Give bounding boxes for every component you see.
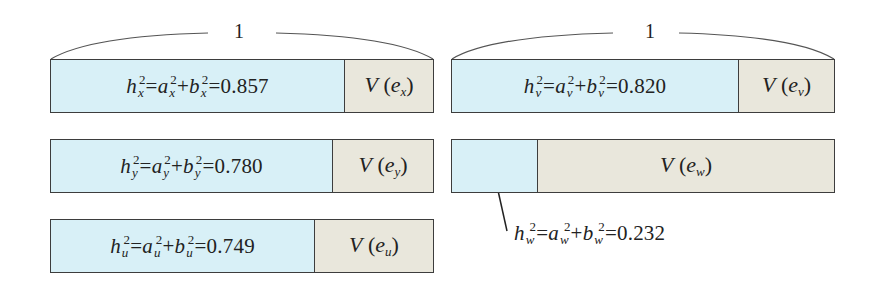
unique-variance-label-y: V (ey)	[358, 152, 407, 180]
bar-x: hx2=ax2+bx2=0.857 V (ex)	[50, 59, 434, 113]
communality-equation-w: hw2=aw2+bw2=0.232	[514, 221, 665, 245]
value-w: 0.232	[617, 221, 665, 245]
bar-w: V (ew)	[451, 139, 835, 193]
unique-variance-label-u: V (eu)	[349, 232, 399, 260]
unique-segment-w: V (ew)	[537, 140, 834, 192]
brace-left	[276, 33, 433, 59]
communality-equation-u: hu2=au2+bu2=0.749	[110, 232, 255, 261]
brace-label-left: 1	[226, 20, 252, 43]
brace-label-right: 1	[637, 20, 663, 43]
unique-variance-label-w: V (ew)	[660, 152, 712, 180]
value-v: 0.820	[618, 74, 666, 98]
bar-y: hy2=ay2+by2=0.780 V (ey)	[50, 139, 434, 193]
unique-segment-v: V (ev)	[738, 60, 834, 112]
unique-variance-label-x: V (ex)	[364, 72, 413, 100]
unique-variance-label-v: V (ev)	[762, 72, 811, 100]
communality-segment-v: hv2=av2+bv2=0.820	[452, 60, 738, 112]
bar-v: hv2=av2+bv2=0.820 V (ev)	[451, 59, 835, 113]
communality-segment-x: hx2=ax2+bx2=0.857	[51, 60, 344, 112]
communality-equation-v: hv2=av2+bv2=0.820	[524, 72, 667, 101]
unique-segment-y: V (ey)	[332, 140, 433, 192]
communality-segment-w	[452, 140, 537, 192]
communality-callout-w: hw2=aw2+bw2=0.232	[514, 219, 665, 248]
communality-equation-x: hx2=ax2+bx2=0.857	[126, 72, 269, 101]
unique-segment-u: V (eu)	[314, 220, 433, 272]
communality-equation-y: hy2=ay2+by2=0.780	[120, 152, 263, 181]
value-y: 0.780	[215, 154, 263, 178]
value-u: 0.749	[207, 234, 255, 258]
brace-right	[679, 33, 834, 59]
bar-u: hu2=au2+bu2=0.749 V (eu)	[50, 219, 434, 273]
communality-segment-u: hu2=au2+bu2=0.749	[51, 220, 314, 272]
brace-left	[51, 33, 208, 59]
unique-segment-x: V (ex)	[344, 60, 433, 112]
value-x: 0.857	[221, 74, 269, 98]
communality-segment-y: hy2=ay2+by2=0.780	[51, 140, 332, 192]
brace-right	[452, 33, 613, 59]
